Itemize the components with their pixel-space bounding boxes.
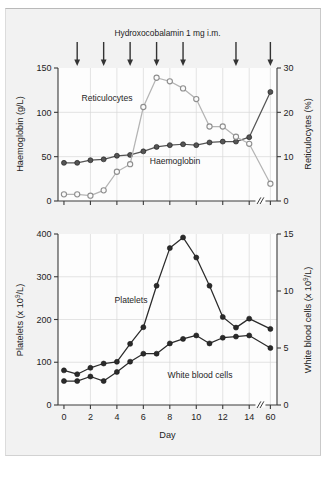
axis-right-ticklabel: 0 bbox=[284, 400, 289, 410]
series-marker bbox=[114, 359, 119, 364]
series-marker bbox=[207, 341, 212, 346]
series-marker bbox=[75, 372, 80, 377]
axis-title-day: Day bbox=[159, 430, 176, 440]
axis-left-ticklabel: 150 bbox=[36, 63, 51, 73]
axis-bottom-ticklabel: 14 bbox=[244, 412, 254, 422]
series-marker bbox=[181, 336, 186, 341]
series-marker bbox=[268, 89, 273, 94]
series-marker bbox=[88, 365, 93, 370]
series-marker bbox=[114, 169, 119, 174]
axis-bottom-ticklabel: 12 bbox=[218, 412, 228, 422]
series-marker bbox=[167, 246, 172, 251]
axis-left-ticklabel: 0 bbox=[46, 400, 51, 410]
axis-right: 051015 bbox=[277, 229, 294, 410]
axis-left-ticklabel: 0 bbox=[46, 196, 51, 206]
dose-arrow-head bbox=[180, 60, 186, 67]
axis-left-ticklabel: 100 bbox=[36, 108, 51, 118]
panel-bottom: 01002003004000510150246810121460 bbox=[36, 229, 293, 421]
series-marker bbox=[194, 255, 199, 260]
dose-arrow-head bbox=[127, 60, 133, 67]
axis-bottom-ticklabel: 2 bbox=[88, 412, 93, 422]
series-marker bbox=[101, 361, 106, 366]
series-marker bbox=[141, 104, 146, 109]
dose-arrow bbox=[233, 42, 239, 66]
axis-bottom-ticklabel: 60 bbox=[265, 412, 275, 422]
series-marker bbox=[61, 368, 66, 373]
axis-right-ticklabel: 20 bbox=[284, 108, 294, 118]
series-marker bbox=[207, 283, 212, 288]
series-marker bbox=[88, 193, 93, 198]
dose-arrow bbox=[127, 42, 133, 66]
series-label-reticulocytes: Reticulocytes bbox=[81, 93, 132, 103]
series-marker bbox=[88, 374, 93, 379]
series-marker bbox=[75, 192, 80, 197]
series-marker bbox=[268, 181, 273, 186]
series-marker bbox=[220, 335, 225, 340]
axis-left-ticklabel: 200 bbox=[36, 315, 51, 325]
series-marker bbox=[180, 86, 185, 91]
axis-bottom-ticklabel: 0 bbox=[61, 412, 66, 422]
series-marker bbox=[220, 314, 225, 319]
axis-title-reticulocytes: Reticulocytes (%) bbox=[303, 98, 313, 169]
series-marker bbox=[154, 75, 159, 80]
series-marker bbox=[141, 325, 146, 330]
axis-left-ticklabel: 400 bbox=[36, 229, 51, 239]
figure-root: 0501001500102030010020030040005101502468… bbox=[0, 0, 331, 479]
dose-arrow-head bbox=[154, 60, 160, 67]
axis-title-white-blood-cells: White blood cells (x 109/L) bbox=[302, 267, 313, 374]
axis-bottom-ticklabel: 8 bbox=[167, 412, 172, 422]
series-marker bbox=[268, 346, 273, 351]
series-marker bbox=[181, 235, 186, 240]
dose-arrow bbox=[74, 42, 80, 66]
axis-bottom-ticklabel: 10 bbox=[191, 412, 201, 422]
series-marker bbox=[207, 140, 212, 145]
series-marker bbox=[154, 283, 159, 288]
series-marker bbox=[247, 333, 252, 338]
series-marker bbox=[167, 341, 172, 346]
series-marker bbox=[75, 160, 80, 165]
series-marker bbox=[114, 153, 119, 158]
series-marker bbox=[194, 143, 199, 148]
axis-title-haemoglobin: Haemoglobin (g/L) bbox=[15, 96, 25, 172]
series-marker bbox=[268, 326, 273, 331]
axis-bottom-ticklabel: 4 bbox=[114, 412, 119, 422]
series-marker bbox=[154, 351, 159, 356]
series-marker bbox=[101, 188, 106, 193]
plot-background bbox=[58, 68, 277, 201]
dose-annotation: Hydroxocobalamin 1 mg i.m. bbox=[74, 28, 273, 66]
series-marker bbox=[101, 157, 106, 162]
series-marker bbox=[233, 334, 238, 339]
series-marker bbox=[220, 124, 225, 129]
panel-top: 0501001500102030 bbox=[36, 63, 293, 206]
series-marker bbox=[181, 142, 186, 147]
series-marker bbox=[114, 369, 119, 374]
series-marker bbox=[128, 359, 133, 364]
dose-arrow-head bbox=[267, 60, 273, 67]
axis-left: 050100150 bbox=[36, 63, 58, 206]
dose-arrow-head bbox=[74, 60, 80, 67]
dose-arrow bbox=[180, 42, 186, 66]
axis-right-ticklabel: 5 bbox=[284, 343, 289, 353]
series-marker bbox=[233, 325, 238, 330]
dose-arrow bbox=[154, 42, 160, 66]
series-marker bbox=[247, 135, 252, 140]
dose-arrow-head bbox=[233, 60, 239, 67]
axis-title-platelets: Platelets (x 109/L) bbox=[14, 284, 25, 357]
dose-annotation-title: Hydroxocobalamin 1 mg i.m. bbox=[114, 28, 220, 38]
series-label-white-blood-cells: White blood cells bbox=[168, 370, 233, 380]
series-marker bbox=[167, 79, 172, 84]
axis-right-ticklabel: 10 bbox=[284, 286, 294, 296]
series-marker bbox=[247, 141, 252, 146]
dose-arrow-head bbox=[101, 60, 107, 67]
series-marker bbox=[61, 379, 66, 384]
series-marker bbox=[167, 143, 172, 148]
axis-left-ticklabel: 50 bbox=[41, 152, 51, 162]
series-marker bbox=[128, 162, 133, 167]
axis-right-ticklabel: 15 bbox=[284, 229, 294, 239]
axis-left-ticklabel: 100 bbox=[36, 357, 51, 367]
series-label-platelets: Platelets bbox=[115, 295, 148, 305]
series-label-haemoglobin: Haemoglobin bbox=[150, 156, 201, 166]
axis-left-ticklabel: 300 bbox=[36, 272, 51, 282]
series-marker bbox=[220, 139, 225, 144]
series-marker bbox=[141, 351, 146, 356]
